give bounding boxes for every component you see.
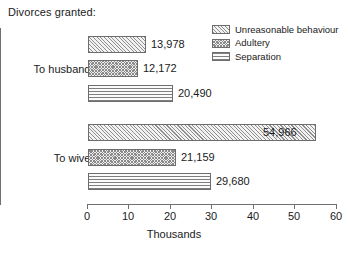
y-axis-line (0, 28, 1, 205)
legend-label-adultery: Adultery (235, 38, 270, 48)
x-tick-30 (211, 204, 212, 209)
x-axis-title: Thousands (0, 228, 348, 240)
bar-value-wives-separation: 29,680 (216, 173, 250, 190)
legend-item-separation: Separation (212, 51, 339, 62)
x-tick-10 (128, 204, 129, 209)
bar-wives-separation (88, 173, 211, 190)
x-tick-0 (87, 204, 88, 209)
legend-swatch-adultery (212, 39, 230, 48)
x-tick-label-30: 30 (205, 210, 217, 222)
x-tick-label-10: 10 (122, 210, 134, 222)
category-label-husbands: To husbands (34, 63, 96, 75)
x-tick-60 (336, 204, 337, 209)
legend-swatch-unreasonable-behaviour (212, 25, 230, 34)
bar-chart: Divorces granted: To husbands To wives 1… (0, 0, 348, 255)
x-tick-40 (253, 204, 254, 209)
x-tick-label-0: 0 (84, 210, 90, 222)
bar-husbands-unreasonable-behaviour (88, 36, 146, 53)
chart-title: Divorces granted: (8, 6, 96, 18)
legend: Unreasonable behaviour Adultery Separati… (212, 24, 339, 65)
legend-label-unreasonable-behaviour: Unreasonable behaviour (235, 25, 339, 35)
bar-value-wives-unreasonable-behaviour: 54,966 (263, 124, 297, 141)
bar-value-wives-adultery: 21,159 (181, 149, 215, 166)
x-tick-50 (294, 204, 295, 209)
x-tick-label-60: 60 (330, 210, 342, 222)
x-tick-20 (170, 204, 171, 209)
bar-wives-adultery (88, 149, 176, 166)
legend-label-separation: Separation (235, 52, 281, 62)
x-tick-label-40: 40 (247, 210, 259, 222)
legend-item-unreasonable-behaviour: Unreasonable behaviour (212, 24, 339, 35)
x-tick-label-20: 20 (164, 210, 176, 222)
bar-value-husbands-adultery: 12,172 (143, 60, 177, 77)
bar-husbands-separation (88, 85, 173, 102)
legend-item-adultery: Adultery (212, 38, 339, 49)
x-tick-label-50: 50 (288, 210, 300, 222)
bar-husbands-adultery (88, 60, 138, 77)
legend-swatch-separation (212, 52, 230, 61)
bar-value-husbands-unreasonable-behaviour: 13,978 (151, 36, 185, 53)
bar-value-husbands-separation: 20,490 (178, 85, 212, 102)
